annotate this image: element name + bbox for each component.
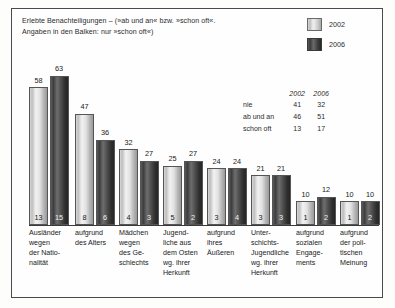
- category-label-line: Engage-: [296, 249, 324, 259]
- bar-total-label: 21: [256, 164, 264, 173]
- legend-item-2002: 2002: [307, 17, 377, 32]
- bar-group: 243244: [207, 46, 247, 225]
- bar-total-label: 21: [277, 164, 285, 173]
- bar-group: 213213: [251, 46, 291, 225]
- category-label-line: dem Osten: [163, 249, 198, 259]
- category-label-line: aufgrund: [207, 229, 235, 239]
- category-label: Mädchenwegendes Ge-schlechts: [119, 229, 149, 269]
- bar-inner-label: 3: [258, 213, 262, 222]
- category-labels: Ausländerwegender Natio-nalitätaufgrundd…: [20, 229, 380, 299]
- bar-2006: 122: [317, 197, 336, 225]
- category-label: aufgrundsozialenEngage-ments: [296, 229, 324, 269]
- bar-inner-label: 4: [126, 213, 130, 222]
- bar-group: 324273: [119, 46, 159, 225]
- bar-2006: 272: [184, 161, 203, 225]
- bar-2002: 101: [296, 201, 315, 225]
- bar-total-label: 25: [168, 154, 176, 163]
- category-label-line: Jugend-: [163, 229, 198, 239]
- category-label: aufgrunddes Alters: [75, 229, 106, 249]
- bar-inner-label: 4: [235, 213, 239, 222]
- bar-inner-label: 1: [303, 213, 307, 222]
- bar-total-label: 24: [212, 157, 220, 166]
- bar-group: 478366: [75, 46, 115, 225]
- category-label-line: Unter-: [251, 229, 289, 239]
- bar-fill: [75, 114, 94, 225]
- bar-2002: 5813: [29, 87, 48, 225]
- bar-inner-label: 13: [34, 213, 42, 222]
- bar-group: 255272: [163, 46, 203, 225]
- category-label: aufgrundder poli-tischenMeinung: [340, 229, 368, 269]
- bar-inner-label: 2: [324, 213, 328, 222]
- chart-figure: Erlebte Benachteiligungen – (»ab und an«…: [0, 0, 395, 308]
- category-label-line: des Ge-: [119, 249, 149, 259]
- category-label-line: wegen: [119, 239, 149, 249]
- category-label-line: wegen: [29, 239, 61, 249]
- bar-total-label: 63: [55, 64, 63, 73]
- category-label-line: tischen: [340, 249, 368, 259]
- bar-inner-label: 2: [191, 213, 195, 222]
- category-label-line: Meinung: [340, 259, 368, 269]
- bar-inner-label: 8: [82, 213, 86, 222]
- category-label-line: schichts-: [251, 239, 289, 249]
- bar-total-label: 12: [322, 185, 330, 194]
- chart-title-line-1: Erlebte Benachteiligungen – (»ab und an«…: [22, 16, 282, 27]
- bar-2006: 244: [228, 168, 247, 225]
- category-label: aufgrundihresÄußeren: [207, 229, 235, 259]
- bar-2006: 366: [96, 140, 115, 225]
- bar-total-label: 10: [345, 190, 353, 199]
- category-label-line: aufgrund: [296, 229, 324, 239]
- bar-inner-label: 3: [214, 213, 218, 222]
- category-label-line: ments: [296, 259, 324, 269]
- category-label-line: der Natio-: [29, 249, 61, 259]
- chart-title-line-2: Angaben in den Balken: nur »schon oft«): [22, 27, 282, 38]
- category-label-line: aufgrund: [340, 229, 368, 239]
- category-label-line: Jugendliche: [251, 249, 289, 259]
- category-label-line: wg. ihrer: [163, 259, 198, 269]
- bar-fill: [29, 87, 48, 225]
- x-axis-line: [29, 225, 379, 226]
- bar-2006: 102: [361, 201, 380, 225]
- bar-group: 101102: [340, 46, 380, 225]
- bar-inner-label: 3: [279, 213, 283, 222]
- bar-fill: [50, 76, 69, 225]
- bar-total-label: 10: [301, 190, 309, 199]
- bar-group: 58136315: [29, 46, 69, 225]
- category-label-line: ihres: [207, 239, 235, 249]
- bar-total-label: 32: [124, 138, 132, 147]
- bar-total-label: 24: [233, 157, 241, 166]
- category-label-line: schlechts: [119, 259, 149, 269]
- bar-2006: 273: [140, 161, 159, 225]
- plot-area: 5813631547836632427325527224324421321310…: [20, 46, 375, 226]
- bar-2002: 101: [340, 201, 359, 225]
- bar-total-label: 27: [189, 149, 197, 158]
- bar-group: 101122: [296, 46, 336, 225]
- bar-2006: 213: [272, 175, 291, 225]
- category-label-line: Herkunft: [251, 269, 289, 279]
- category-label-line: aufgrund: [75, 229, 106, 239]
- category-label-line: des Alters: [75, 239, 106, 249]
- category-label-line: sozialen: [296, 239, 324, 249]
- bar-inner-label: 6: [103, 213, 107, 222]
- category-label: Jugend-liche ausdem Ostenwg. ihrerHerkun…: [163, 229, 198, 279]
- bar-2002: 243: [207, 168, 226, 225]
- bar-2002: 255: [163, 166, 182, 225]
- bar-2002: 213: [251, 175, 270, 225]
- category-label-line: Ausländer: [29, 229, 61, 239]
- category-label-line: der poli-: [340, 239, 368, 249]
- bar-total-label: 27: [145, 149, 153, 158]
- bar-inner-label: 5: [170, 213, 174, 222]
- bar-total-label: 58: [34, 76, 42, 85]
- legend-swatch-2002: [307, 18, 322, 31]
- bar-2006: 6315: [50, 76, 69, 225]
- category-label-line: wg. ihrer: [251, 259, 289, 269]
- category-label-line: Herkunft: [163, 269, 198, 279]
- bar-inner-label: 15: [55, 213, 63, 222]
- category-label: Unter-schichts-Jugendlichewg. ihrerHerku…: [251, 229, 289, 279]
- category-label-line: nalität: [29, 259, 61, 269]
- chart-title: Erlebte Benachteiligungen – (»ab und an«…: [22, 16, 282, 39]
- bar-total-label: 36: [101, 128, 109, 137]
- bar-total-label: 47: [80, 102, 88, 111]
- bar-2002: 324: [119, 149, 138, 225]
- bar-total-label: 10: [366, 190, 374, 199]
- bar-2002: 478: [75, 114, 94, 225]
